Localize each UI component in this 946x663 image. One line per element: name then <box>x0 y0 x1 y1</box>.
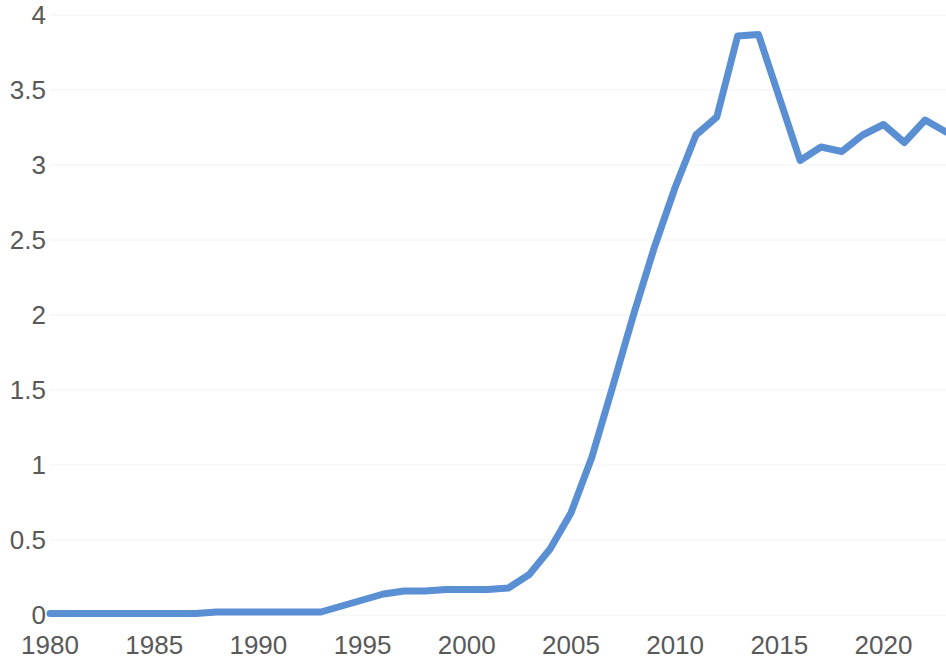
x-tick-label: 1995 <box>334 632 392 658</box>
x-tick-label: 1990 <box>229 632 287 658</box>
x-tick-label: 2015 <box>750 632 808 658</box>
x-tick-label: 2020 <box>855 632 913 658</box>
x-tick-label: 2005 <box>542 632 600 658</box>
x-tick-label: 1980 <box>21 632 79 658</box>
x-tick-label: 2010 <box>646 632 704 658</box>
line-chart: 00.511.522.533.54 1980198519901995200020… <box>0 0 946 663</box>
x-axis: 198019851990199520002005201020152020 <box>0 0 946 663</box>
x-tick-label: 1985 <box>125 632 183 658</box>
x-tick-label: 2000 <box>438 632 496 658</box>
